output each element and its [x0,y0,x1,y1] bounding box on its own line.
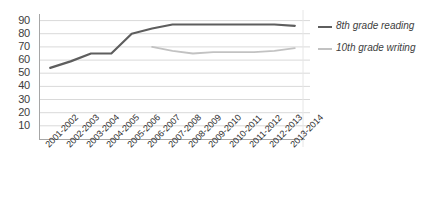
legend-swatch-icon [318,48,332,50]
legend-swatch-icon [318,26,332,28]
chart-legend: 8th grade reading 10th grade writing [318,18,423,62]
line-chart: 908070605040302010 2001-20022002-2003200… [0,0,425,204]
legend-item-10th-grade-writing: 10th grade writing [318,40,423,58]
legend-item-8th-grade-reading: 8th grade reading [318,18,423,36]
legend-item-label: 8th grade reading [336,20,414,32]
legend-item-label: 10th grade writing [336,42,416,54]
